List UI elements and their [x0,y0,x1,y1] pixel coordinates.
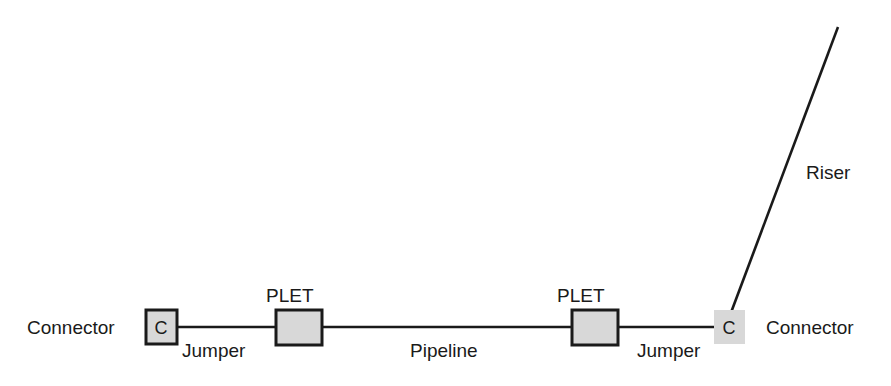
label-connector-left: Connector [27,318,115,337]
label-plet-left: PLET [266,286,314,305]
connector-left-letter: C [148,319,174,337]
label-jumper-right: Jumper [637,341,700,360]
label-pipeline: Pipeline [410,341,478,360]
plet-box-left [276,310,322,345]
plet-box-right [572,310,618,345]
connector-right-letter: C [716,319,742,337]
diagram-canvas [0,0,891,386]
label-connector-right: Connector [766,318,854,337]
pipeline-schematic-diagram: Connector C Jumper PLET Pipeline PLET Ju… [0,0,891,386]
label-plet-right: PLET [557,286,605,305]
label-jumper-left: Jumper [182,341,245,360]
label-riser: Riser [806,163,850,182]
